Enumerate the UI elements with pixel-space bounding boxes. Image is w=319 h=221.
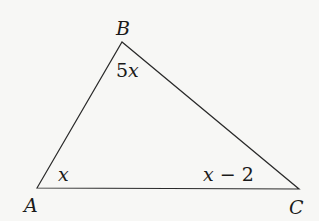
triangle-figure: B A C 5x x x−2 [0, 0, 319, 221]
angle-label-a: x [58, 163, 69, 185]
angle-c-constant: 2 [242, 163, 254, 185]
angle-c-operator: − [220, 163, 236, 185]
angle-label-c: x−2 [203, 163, 254, 185]
vertex-label-a: A [22, 194, 38, 216]
angle-b-variable: x [128, 59, 139, 81]
triangle-abc [37, 42, 299, 189]
vertex-label-c: C [289, 196, 304, 218]
angle-b-coefficient: 5 [116, 59, 128, 81]
vertex-label-b: B [115, 17, 130, 39]
diagram-canvas: B A C 5x x x−2 [0, 0, 319, 221]
angle-label-b: 5x [116, 59, 139, 81]
angle-c-variable: x [203, 163, 214, 185]
